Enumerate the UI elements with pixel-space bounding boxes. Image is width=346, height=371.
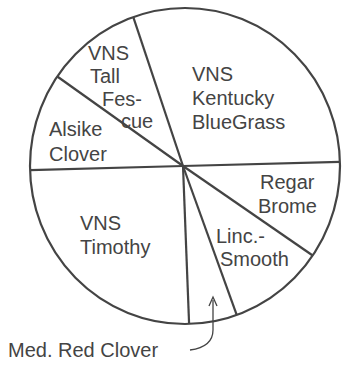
svg-text:Linc.-: Linc.- — [216, 225, 265, 247]
pie-chart: VNS Kentucky BlueGrass VNS Tall Fes- cue… — [0, 0, 346, 371]
svg-text:VNS: VNS — [80, 212, 121, 234]
svg-text:Kentucky: Kentucky — [192, 87, 274, 109]
svg-text:Alsike: Alsike — [49, 118, 102, 140]
svg-text:Timothy: Timothy — [80, 236, 150, 258]
leader-arrow — [190, 300, 213, 350]
slice-divider — [30, 166, 183, 170]
svg-text:cue: cue — [121, 110, 153, 132]
label-regar-brome: Regar Brome — [258, 171, 317, 217]
svg-text:Tall: Tall — [90, 65, 120, 87]
label-kentucky-bluegrass: VNS Kentucky BlueGrass — [192, 63, 285, 133]
svg-text:Fes-: Fes- — [102, 88, 142, 110]
svg-text:VNS: VNS — [192, 63, 233, 85]
svg-text:Brome: Brome — [258, 195, 317, 217]
slice-divider — [183, 162, 340, 166]
svg-text:Regar: Regar — [260, 171, 315, 193]
svg-text:Smooth: Smooth — [220, 248, 289, 270]
svg-text:Clover: Clover — [49, 143, 107, 165]
svg-text:Med. Red Clover: Med. Red Clover — [8, 339, 158, 361]
slice-divider — [183, 166, 189, 324]
label-alsike-clover: Alsike Clover — [49, 118, 107, 165]
svg-text:VNS: VNS — [88, 42, 129, 64]
svg-text:BlueGrass: BlueGrass — [192, 111, 285, 133]
label-vns-timothy: VNS Timothy — [80, 212, 150, 258]
